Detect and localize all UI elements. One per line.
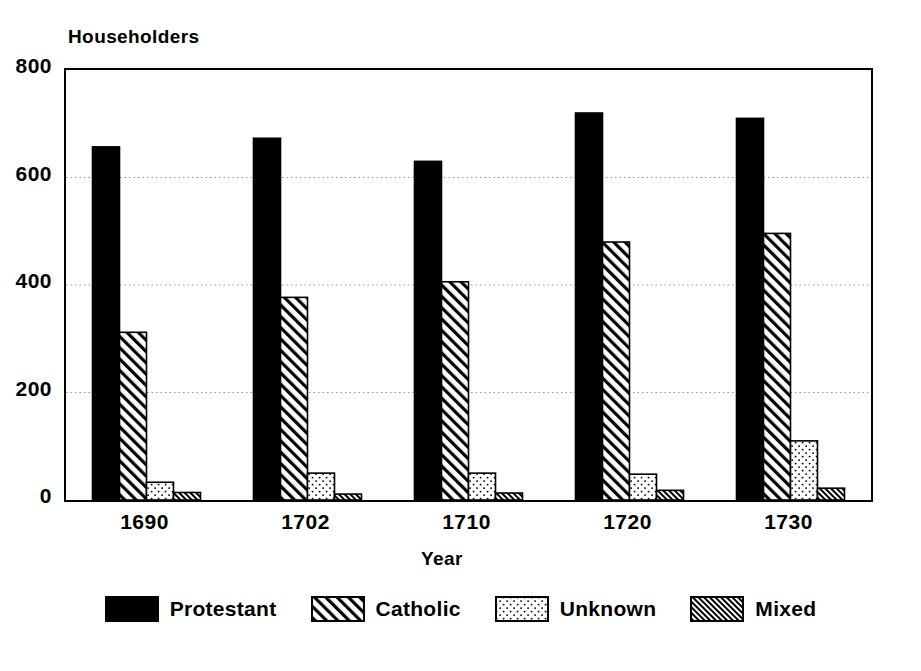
bar (657, 490, 684, 500)
bar (496, 493, 523, 500)
bar (120, 332, 147, 500)
bar (281, 297, 308, 500)
legend-swatch-catholic (311, 596, 365, 622)
bar (603, 242, 630, 500)
bar (469, 473, 496, 500)
bar-group-layer (93, 113, 845, 500)
bar (147, 482, 174, 500)
y-axis-tick-label: 0 (0, 484, 52, 508)
bar (93, 147, 120, 500)
bar (764, 233, 791, 500)
legend-label: Unknown (560, 597, 657, 621)
legend-label: Mixed (755, 597, 816, 621)
legend-item: Protestant (105, 596, 277, 622)
bar (818, 488, 845, 500)
legend-swatch-unknown (495, 596, 549, 622)
legend-label: Catholic (376, 597, 461, 621)
chart-container: Householders 02004006 (0, 0, 921, 671)
legend-label: Protestant (170, 597, 277, 621)
plot-area (64, 68, 873, 502)
y-axis-tick-label: 200 (0, 377, 52, 401)
plot-svg (66, 70, 871, 500)
x-axis-tick-label: 1702 (246, 510, 366, 534)
x-axis-tick-label: 1710 (407, 510, 527, 534)
y-axis-tick-label: 400 (0, 269, 52, 293)
y-axis-tick-label: 800 (0, 54, 52, 78)
legend-item: Unknown (495, 596, 657, 622)
bar (442, 282, 469, 500)
legend-item: Mixed (690, 596, 816, 622)
legend-swatch-mixed (690, 596, 744, 622)
bar (791, 441, 818, 500)
chart-legend: Protestant Catholic (0, 596, 921, 622)
y-axis-tick-label: 600 (0, 162, 52, 186)
bar (254, 138, 281, 500)
bar (308, 473, 335, 500)
bar (630, 474, 657, 500)
bar (174, 492, 201, 500)
y-axis-title: Householders (68, 26, 200, 48)
bar (335, 494, 362, 500)
bar (415, 161, 442, 500)
bar (576, 113, 603, 500)
x-axis-title: Year (421, 548, 463, 570)
x-axis-tick-label: 1730 (729, 510, 849, 534)
x-axis-tick-label: 1720 (568, 510, 688, 534)
x-axis-tick-label: 1690 (85, 510, 205, 534)
legend-swatch-protestant (105, 596, 159, 622)
bar (737, 118, 764, 500)
legend-item: Catholic (311, 596, 461, 622)
